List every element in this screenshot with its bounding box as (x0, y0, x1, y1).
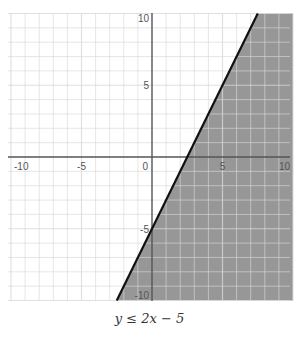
x-tick-label: -10 (14, 161, 29, 172)
x-tick-label: 0 (142, 161, 148, 172)
y-tick-label: -5 (140, 224, 149, 235)
y-tick-label: 10 (138, 13, 150, 24)
x-tick-label: 5 (220, 161, 226, 172)
inequality-caption: y ≤ 2x − 5 (0, 311, 299, 326)
y-tick-label: -10 (135, 290, 150, 301)
x-tick-label: -5 (77, 161, 86, 172)
y-tick-label: 5 (143, 80, 149, 91)
x-tick-label: 10 (279, 161, 291, 172)
inequality-graph: -10-50510105-5-10 (0, 0, 299, 305)
